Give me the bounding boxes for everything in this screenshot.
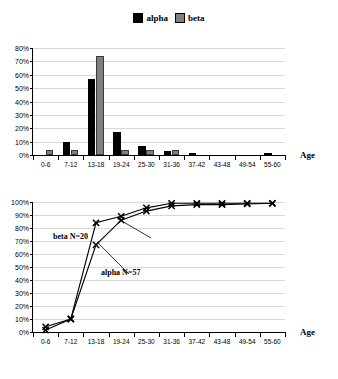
y-axis-tick-mark xyxy=(30,142,33,143)
x-axis-tick-label: 31-36 xyxy=(163,161,180,168)
legend-label-alpha: alpha xyxy=(146,13,168,23)
y-axis-tick-label: 30% xyxy=(1,290,29,297)
y-axis-tick-label: 100% xyxy=(1,199,29,206)
y-axis-tick-mark xyxy=(30,61,33,62)
x-axis-tick-label: 0-6 xyxy=(41,161,50,168)
x-axis-title: Age xyxy=(300,327,315,337)
grid-line xyxy=(33,48,285,49)
chart-legend: alpha beta xyxy=(0,13,338,23)
legend-item-alpha: alpha xyxy=(133,13,168,23)
y-axis-tick-label: 50% xyxy=(1,85,29,92)
y-axis-tick-label: 80% xyxy=(1,45,29,52)
line-series-alpha xyxy=(46,203,273,330)
x-axis-tick-label: 31-36 xyxy=(163,338,180,345)
y-axis-tick-label: 40% xyxy=(1,277,29,284)
x-axis-tick-mark xyxy=(184,155,185,160)
y-axis-tick-label: 60% xyxy=(1,71,29,78)
x-axis-tick-label: 49-54 xyxy=(239,161,256,168)
x-axis-tick-mark xyxy=(109,332,110,337)
y-axis-tick-label: 70% xyxy=(1,238,29,245)
y-axis-tick-mark xyxy=(30,115,33,116)
square-swatch-icon xyxy=(175,13,185,23)
y-axis-tick-label: 30% xyxy=(1,111,29,118)
bar-beta-13-18 xyxy=(96,56,104,155)
bar-alpha-19-24 xyxy=(113,132,121,155)
x-axis-tick-mark xyxy=(235,332,236,337)
bar-chart: 0%10%20%30%40%50%60%70%80%0-67-1213-1819… xyxy=(0,38,338,183)
annotation-leader-line xyxy=(117,218,151,238)
bar-beta-31-36 xyxy=(172,150,180,155)
bar-beta-0-6 xyxy=(46,150,54,155)
y-axis-tick-mark xyxy=(30,128,33,129)
x-axis-tick-mark xyxy=(285,332,286,337)
x-axis-tick-mark xyxy=(209,155,210,160)
grid-line xyxy=(33,142,285,143)
square-swatch-icon xyxy=(133,13,143,23)
annotation-label-beta: beta N=20 xyxy=(53,232,88,241)
figure-container: alpha beta 0%10%20%30%40%50%60%70%80%0-6… xyxy=(0,0,338,379)
x-axis-tick-mark xyxy=(134,332,135,337)
x-axis-tick-label: 0-6 xyxy=(41,338,50,345)
x-axis-tick-label: 37-42 xyxy=(188,161,205,168)
x-axis-tick-mark xyxy=(209,332,210,337)
x-axis-tick-mark xyxy=(83,155,84,160)
legend-label-beta: beta xyxy=(188,13,205,23)
x-axis-tick-label: 55-60 xyxy=(264,338,281,345)
grid-line xyxy=(33,88,285,89)
line-chart: 0%10%20%30%40%50%60%70%80%90%100%0-67-12… xyxy=(0,190,338,379)
grid-line xyxy=(33,102,285,103)
x-axis-tick-mark xyxy=(184,332,185,337)
legend-item-beta: beta xyxy=(175,13,205,23)
bar-alpha-55-60 xyxy=(264,153,272,155)
bar-alpha-31-36 xyxy=(164,151,172,155)
x-axis-tick-mark xyxy=(260,332,261,337)
x-axis-tick-mark xyxy=(235,155,236,160)
y-axis-tick-label: 10% xyxy=(1,316,29,323)
grid-line xyxy=(33,128,285,129)
grid-line xyxy=(33,115,285,116)
x-axis-tick-label: 37-42 xyxy=(188,338,205,345)
y-axis-tick-label: 70% xyxy=(1,58,29,65)
y-axis-tick-mark xyxy=(30,75,33,76)
bar-alpha-37-42 xyxy=(189,153,197,155)
x-axis-tick-mark xyxy=(58,332,59,337)
x-axis-tick-label: 55-60 xyxy=(264,161,281,168)
x-axis-tick-label: 49-54 xyxy=(239,338,256,345)
marker-x-icon xyxy=(43,327,49,333)
x-axis-tick-label: 19-24 xyxy=(113,338,130,345)
x-axis-title: Age xyxy=(300,150,315,160)
x-axis-tick-mark xyxy=(33,155,34,160)
grid-line xyxy=(33,75,285,76)
y-axis-tick-label: 0% xyxy=(1,329,29,336)
x-axis-tick-label: 7-12 xyxy=(64,161,77,168)
line-plot-area: 0%10%20%30%40%50%60%70%80%90%100%0-67-12… xyxy=(32,202,285,333)
x-axis-tick-mark xyxy=(58,155,59,160)
x-axis-tick-label: 43-48 xyxy=(214,161,231,168)
x-axis-tick-label: 13-18 xyxy=(88,161,105,168)
x-axis-tick-mark xyxy=(83,332,84,337)
annotation-label-alpha: alpha N=57 xyxy=(101,268,140,277)
bar-beta-7-12 xyxy=(71,150,79,155)
y-axis-tick-label: 20% xyxy=(1,303,29,310)
y-axis-tick-mark xyxy=(30,88,33,89)
y-axis-tick-label: 80% xyxy=(1,225,29,232)
x-axis-tick-mark xyxy=(109,155,110,160)
x-axis-tick-mark xyxy=(285,155,286,160)
line-series-group xyxy=(33,202,285,332)
grid-line xyxy=(33,61,285,62)
bar-plot-area: 0%10%20%30%40%50%60%70%80%0-67-1213-1819… xyxy=(32,48,285,156)
bar-alpha-13-18 xyxy=(88,79,96,155)
y-axis-tick-mark xyxy=(30,48,33,49)
bar-beta-19-24 xyxy=(121,150,129,155)
y-axis-tick-label: 50% xyxy=(1,264,29,271)
y-axis-tick-label: 60% xyxy=(1,251,29,258)
y-axis-tick-label: 0% xyxy=(1,152,29,159)
x-axis-tick-mark xyxy=(159,155,160,160)
x-axis-tick-label: 7-12 xyxy=(64,338,77,345)
y-axis-tick-label: 10% xyxy=(1,138,29,145)
x-axis-tick-label: 25-30 xyxy=(138,338,155,345)
bar-beta-25-30 xyxy=(146,150,154,155)
y-axis-tick-label: 40% xyxy=(1,98,29,105)
line-series-beta xyxy=(46,203,273,326)
x-axis-tick-label: 25-30 xyxy=(138,161,155,168)
